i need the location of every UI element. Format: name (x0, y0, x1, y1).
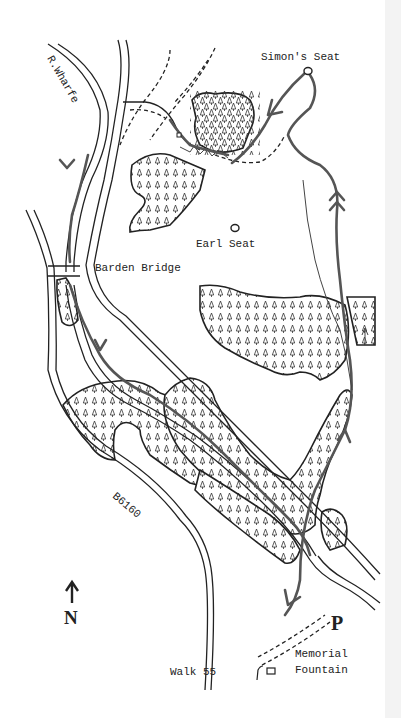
route-arrow-river (60, 160, 74, 168)
footpath-north-1 (120, 50, 170, 145)
woodland-central (200, 285, 349, 380)
label-parking: P (331, 612, 343, 634)
north-label: N (64, 607, 78, 628)
label-earl-seat: Earl Seat (196, 238, 255, 250)
page-edge-shade (385, 0, 401, 718)
label-memorial: Memorial (295, 648, 348, 660)
memorial-fountain-marker (267, 668, 275, 674)
summit-earl-seat-marker (231, 225, 239, 232)
label-simons-seat: Simon's Seat (261, 51, 340, 63)
woodland-east-strip (347, 297, 375, 345)
north-arrow-icon (66, 582, 78, 603)
route-river-walk (69, 155, 88, 262)
label-river-wharfe: R.Wharfe (44, 54, 81, 106)
woodland-areas (57, 90, 375, 563)
label-barden-bridge: Barden Bridge (95, 262, 181, 274)
woodland-west (130, 154, 205, 232)
walk-map: N R.Wharfe Simon's Seat Earl Seat Barden… (0, 0, 401, 718)
road-lower (310, 556, 380, 610)
north-arrow: N (64, 582, 78, 628)
summit-simons-seat-marker (304, 68, 312, 75)
road-barden-bridge (48, 266, 80, 276)
label-road-b6160: B6160 (110, 490, 143, 520)
label-fountain: Fountain (295, 664, 348, 676)
memorial-path-stub (257, 666, 263, 680)
label-walk-number: Walk 55 (170, 666, 216, 678)
building-marker (177, 133, 181, 137)
